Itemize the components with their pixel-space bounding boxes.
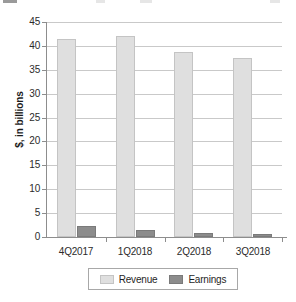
legend-label-revenue: Revenue <box>119 274 158 285</box>
bar-earnings-1Q2018 <box>136 230 155 237</box>
y-tick-label: 15 <box>0 160 40 170</box>
chart-legend: Revenue Earnings <box>88 268 238 290</box>
y-tick-label: 30 <box>0 89 40 99</box>
x-tick-label: 3Q2018 <box>218 246 288 257</box>
bar-chart: $, in billions 051015202530354045 4Q2017… <box>0 0 296 302</box>
x-tick-mark <box>106 237 107 242</box>
bar-revenue-2Q2018 <box>174 52 193 237</box>
y-tick-label: 20 <box>0 136 40 146</box>
y-tick-label: 45 <box>0 17 40 27</box>
y-tick-label: 0 <box>0 232 40 242</box>
legend-swatch-earnings-icon <box>169 275 183 284</box>
bar-earnings-3Q2018 <box>253 234 272 237</box>
x-tick-mark <box>282 237 283 242</box>
legend-label-earnings: Earnings <box>188 274 226 285</box>
y-tick-labels: 051015202530354045 <box>0 0 40 302</box>
y-tick-label: 25 <box>0 113 40 123</box>
bar-revenue-4Q2017 <box>57 39 76 237</box>
y-tick-label: 5 <box>0 208 40 218</box>
bar-revenue-1Q2018 <box>116 36 135 237</box>
bar-revenue-3Q2018 <box>233 58 252 237</box>
y-tick-label: 10 <box>0 184 40 194</box>
legend-item-earnings: Earnings <box>169 274 226 285</box>
plot-area <box>47 22 282 237</box>
legend-item-revenue: Revenue <box>100 274 158 285</box>
legend-swatch-revenue-icon <box>100 275 114 284</box>
y-tick-label: 40 <box>0 41 40 51</box>
x-tick-mark <box>165 237 166 242</box>
x-tick-mark <box>223 237 224 242</box>
bar-earnings-2Q2018 <box>194 233 213 237</box>
bar-earnings-4Q2017 <box>77 226 96 237</box>
y-tick-label: 35 <box>0 65 40 75</box>
